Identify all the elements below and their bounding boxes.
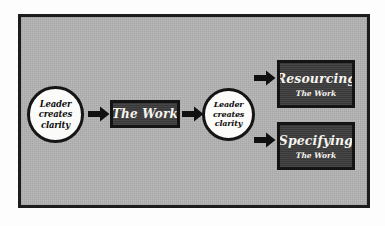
- diagram-frame: [18, 14, 370, 208]
- diagram-stage: [21, 17, 367, 205]
- diagram-canvas: Leader creates clarity The Work Leader c…: [0, 0, 385, 226]
